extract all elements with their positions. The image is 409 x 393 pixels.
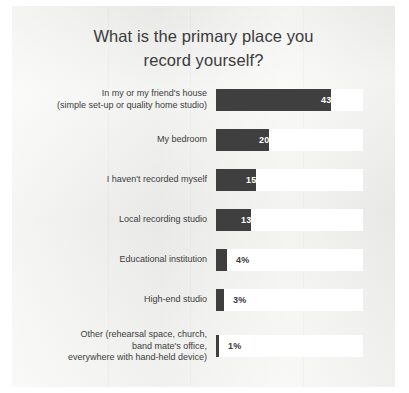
bar-track: 1% — [216, 335, 363, 357]
bar-value: 43% — [321, 95, 340, 105]
bar-track: 20% — [216, 129, 363, 151]
bar-label: I haven't recorded myself — [12, 174, 216, 186]
bar-value: 1% — [228, 341, 241, 351]
bar-label: Local recording studio — [12, 214, 216, 226]
bar-row: Educational institution 4% — [12, 249, 395, 271]
bar-row: In my or my friend's house (simple set-u… — [12, 88, 395, 111]
bar-value: 3% — [233, 295, 246, 305]
bar-value: 4% — [236, 255, 249, 265]
chart-panel: What is the primary place you record you… — [12, 6, 395, 387]
bar-chart-rows: In my or my friend's house (simple set-u… — [12, 88, 395, 382]
bar-row: High-end studio 3% — [12, 289, 395, 311]
bar-label: Other (rehearsal space, church, band mat… — [12, 329, 216, 364]
bar-label: In my or my friend's house (simple set-u… — [12, 88, 216, 111]
bar-row: Local recording studio 13% — [12, 209, 395, 231]
bar-fill — [216, 89, 331, 111]
bar-row: I haven't recorded myself 15% — [12, 169, 395, 191]
bar-track: 13% — [216, 209, 363, 231]
bar-label: Educational institution — [12, 254, 216, 266]
bar-label: High-end studio — [12, 294, 216, 306]
bar-value: 15% — [246, 175, 265, 185]
bar-track: 4% — [216, 249, 363, 271]
bar-track: 43% — [216, 89, 363, 111]
bar-track: 15% — [216, 169, 363, 191]
bar-label: My bedroom — [12, 134, 216, 146]
bar-fill — [216, 289, 224, 311]
bar-row: My bedroom 20% — [12, 129, 395, 151]
chart-title: What is the primary place you record you… — [42, 24, 365, 72]
bar-row: Other (rehearsal space, church, band mat… — [12, 329, 395, 364]
bar-fill — [216, 335, 219, 357]
bar-value: 13% — [241, 215, 260, 225]
bar-fill — [216, 249, 227, 271]
bar-track: 3% — [216, 289, 363, 311]
bar-value: 20% — [259, 135, 278, 145]
